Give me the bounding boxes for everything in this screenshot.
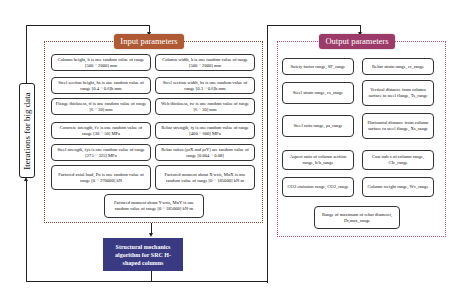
loop-line-left-lower (26, 181, 27, 282)
input-column-width: Column width, b is one random value of r… (155, 54, 255, 71)
structural-mechanics-algorithm: Structural mechanics algorithm for SRC H… (103, 238, 183, 271)
output-steel-ratio: Steel ratio range, ρs_range (282, 115, 354, 137)
output-column-weight: Column weight range, Wc_range (362, 177, 434, 197)
input-steel-section-width: Steel section width, bs is one random va… (155, 77, 255, 94)
input-moment-y: Factored moment about Y-axis, MuY is one… (104, 194, 204, 218)
output-co2-emission: CO2 emission range, CO2_range (282, 177, 354, 197)
output-rebar-strain: Rebar strain range, εr_range (362, 58, 434, 75)
input-moment-x: Factored moment about X-axis, MuX is one… (155, 165, 255, 190)
output-horizontal-distance: Horizontal distance from column surface … (362, 113, 434, 139)
loop-line-bottom (26, 281, 268, 282)
loop-line-left-upper (26, 25, 27, 83)
loop-line-right (267, 25, 268, 283)
input-axial-load: Factored axial load, Pu is one random va… (51, 165, 151, 190)
input-flange-thickness: Flange thickness, tf is one random value… (51, 98, 151, 115)
output-aspect-ratio: Aspect ratio of column section range, h/… (282, 150, 354, 170)
output-cost-index: Cost index of column range, CIc_range (362, 150, 434, 170)
input-rebar-strength: Rebar strength, fy is one random value o… (155, 122, 255, 139)
output-steel-strain: Steel strain range, εs_range (282, 82, 354, 104)
output-max-rebar-diameter: Range of maximum of rebar diameter, Dr,m… (314, 206, 400, 229)
output-vertical-distance: Vertical distance from column surface to… (362, 80, 434, 106)
input-rebar-ratios: Rebar ratios (ρrX and ρrY) are random va… (155, 144, 255, 161)
iterations-box: Iterations for big data (19, 83, 35, 178)
output-parameters-title: Output parameters (319, 34, 395, 49)
output-line-top (267, 25, 361, 26)
algo-out-stem (151, 271, 152, 282)
input-steel-section-height: Steel section height, hs is one random v… (51, 77, 151, 94)
algo-arrow-head-icon (149, 233, 153, 237)
input-parameters-title: Input parameters (114, 34, 184, 49)
input-column-height: Column height, h is one random value of … (51, 54, 151, 71)
iterations-label: Iterations for big data (22, 92, 32, 170)
input-web-thickness: Web thickness, tw is one random value of… (155, 98, 255, 115)
loop-line-top-left (26, 25, 150, 26)
output-safety-factor: Safety factor range, SF_range (282, 58, 354, 75)
input-steel-strength: Steel strength, fys is one random value … (51, 144, 151, 161)
input-concrete-strength: Concrete strength, f'c is one random val… (51, 122, 151, 139)
